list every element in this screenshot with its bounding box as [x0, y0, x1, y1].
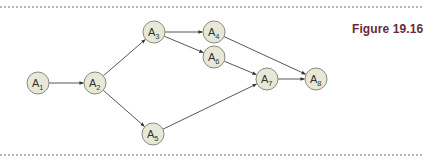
node-a2: A2: [84, 72, 106, 94]
bottom-dotted-rule: [0, 154, 422, 156]
node-a1: A1: [27, 72, 49, 94]
precedence-diagram: A1A2A3A4A5A6A7A8: [0, 0, 445, 166]
edge-a2-to-a5: [103, 90, 144, 126]
edge-a6-to-a7: [224, 61, 256, 74]
edge-a3-to-a6: [164, 36, 203, 52]
node-a8: A8: [305, 68, 327, 90]
node-a3: A3: [143, 21, 165, 43]
node-a5: A5: [142, 123, 164, 145]
edge-a2-to-a3: [103, 40, 145, 76]
node-a6: A6: [203, 46, 225, 68]
edge-a5-to-a7: [163, 84, 257, 129]
node-a4: A4: [203, 21, 225, 43]
node-a7: A7: [256, 68, 278, 90]
